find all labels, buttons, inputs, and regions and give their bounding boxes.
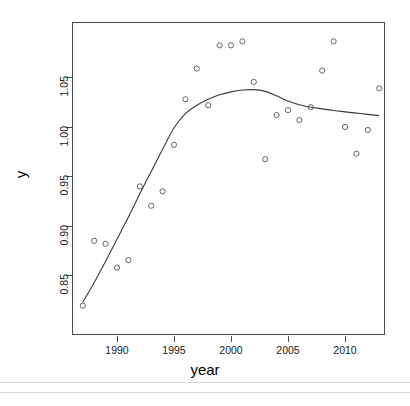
x-tick-mark xyxy=(117,336,118,342)
y-tick-label: 1.05 xyxy=(58,76,70,106)
y-tick-label: 1.00 xyxy=(58,126,70,156)
x-tick-mark xyxy=(174,336,175,342)
x-axis-title: year xyxy=(0,361,410,378)
x-tick-label: 2000 xyxy=(211,344,251,356)
x-tick-mark xyxy=(345,336,346,342)
y-tick-label: 0.95 xyxy=(58,175,70,205)
x-tick-label: 1990 xyxy=(97,344,137,356)
chart-figure: 0.850.900.951.001.05 1990199520002005201… xyxy=(0,0,410,406)
x-tick-label: 1995 xyxy=(154,344,194,356)
y-tick-label: 0.90 xyxy=(58,225,70,255)
x-tick-mark xyxy=(231,336,232,342)
page-divider-bottom xyxy=(0,392,410,393)
x-tick-label: 2005 xyxy=(268,344,308,356)
y-tick-label: 0.85 xyxy=(58,274,70,304)
y-axis-title: y xyxy=(12,155,29,195)
x-tick-mark xyxy=(288,336,289,342)
page-divider-top xyxy=(0,382,410,383)
plot-frame xyxy=(72,22,385,335)
x-tick-label: 2010 xyxy=(325,344,365,356)
